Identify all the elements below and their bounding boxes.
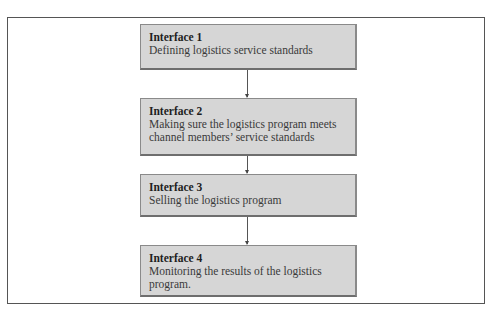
- step-title: Interface 3: [149, 181, 347, 194]
- step-description: Making sure the logistics program meets …: [149, 118, 347, 144]
- arrow-down-icon: [247, 217, 248, 244]
- step-description: Selling the logistics program: [149, 194, 347, 207]
- step-title: Interface 1: [149, 31, 347, 44]
- step-description: Defining logistics service standards: [149, 44, 347, 57]
- step-box-interface-1: Interface 1 Defining logistics service s…: [140, 24, 357, 70]
- step-title: Interface 4: [149, 252, 347, 265]
- step-description: Monitoring the results of the logistics …: [149, 265, 347, 291]
- step-box-interface-2: Interface 2 Making sure the logistics pr…: [140, 98, 357, 156]
- arrow-down-icon: [247, 70, 248, 97]
- step-box-interface-4: Interface 4 Monitoring the results of th…: [140, 245, 357, 297]
- step-title: Interface 2: [149, 105, 347, 118]
- arrow-down-icon: [247, 156, 248, 173]
- step-box-interface-3: Interface 3 Selling the logistics progra…: [140, 174, 357, 217]
